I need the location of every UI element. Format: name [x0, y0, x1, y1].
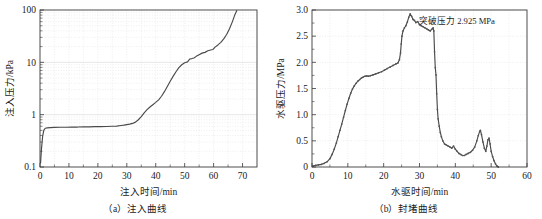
chart-b-gridlines: [312, 10, 527, 167]
svg-text:40: 40: [151, 171, 161, 181]
svg-text:3.0: 3.0: [296, 5, 308, 15]
svg-text:1.0: 1.0: [296, 110, 308, 120]
chart-a-xlabel: 注入时间/min: [120, 186, 178, 197]
svg-text:40: 40: [451, 171, 461, 181]
panel-plugging-curve: 010203040506000.51.01.52.02.53.0 突破压力 2.…: [271, 0, 542, 219]
chart-a-gridlines: [40, 10, 257, 167]
svg-text:10: 10: [64, 171, 74, 181]
chart-b-svg: 010203040506000.51.01.52.02.53.0 突破压力 2.…: [271, 0, 542, 219]
svg-text:10: 10: [27, 58, 37, 68]
chart-a-ylabel: 注入压力/kPa: [4, 59, 15, 117]
svg-text:0: 0: [310, 171, 315, 181]
svg-text:1.5: 1.5: [296, 84, 308, 94]
svg-text:100: 100: [22, 5, 37, 15]
svg-text:2.5: 2.5: [296, 31, 308, 41]
chart-a-frame: [40, 10, 257, 167]
svg-text:2.0: 2.0: [296, 58, 308, 68]
svg-text:0.5: 0.5: [296, 136, 308, 146]
chart-a-curve: [41, 11, 237, 163]
svg-text:60: 60: [209, 171, 219, 181]
svg-text:50: 50: [180, 171, 190, 181]
panel-injection-curve: 0102030405060700.1110100 注入时间/min 注入压力/k…: [0, 0, 271, 219]
chart-b-xlabel: 水驱时间/min: [391, 186, 449, 197]
chart-a-svg: 0102030405060700.1110100 注入时间/min 注入压力/k…: [0, 0, 271, 219]
svg-text:30: 30: [122, 171, 132, 181]
svg-text:60: 60: [522, 171, 532, 181]
svg-text:50: 50: [486, 171, 496, 181]
chart-b-ylabel: 水驱压力/MPa: [275, 57, 286, 118]
svg-text:0: 0: [303, 162, 308, 172]
svg-text:20: 20: [379, 171, 389, 181]
figure-two-panel-charts: 0102030405060700.1110100 注入时间/min 注入压力/k…: [0, 0, 542, 219]
chart-b-breakthrough-annotation: 突破压力 2.925 MPa: [419, 15, 495, 26]
svg-text:1: 1: [31, 110, 36, 120]
svg-text:0.1: 0.1: [24, 162, 36, 172]
svg-text:30: 30: [415, 171, 425, 181]
svg-text:0: 0: [38, 171, 43, 181]
chart-b-caption: （b）封堵曲线: [374, 203, 439, 214]
svg-text:70: 70: [238, 171, 248, 181]
chart-a-caption: （a）注入曲线: [103, 203, 167, 214]
svg-text:20: 20: [93, 171, 103, 181]
svg-text:10: 10: [343, 171, 353, 181]
